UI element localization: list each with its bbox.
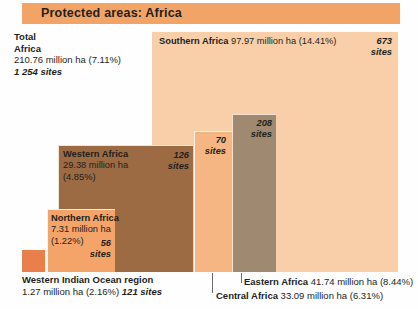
total-label-line2: Africa [14, 43, 154, 55]
callout-wio-line2: 1.27 million ha (2.16%) 121 sites [22, 286, 162, 298]
label-southern-africa: Southern Africa 97.97 million ha (14.41%… [159, 36, 336, 47]
sites-northern-africa: 56 sites [76, 238, 111, 260]
label-western-africa-name: Western Africa [63, 149, 128, 160]
sites-western-africa: 126 sites [157, 150, 189, 172]
label-northern-africa-name: Northern Africa [51, 213, 119, 224]
sites-eastern-africa-number: 208 [236, 118, 272, 129]
callout-eastern-value: 41.74 million ha (8.44%) [311, 276, 413, 287]
callout-wio-sites: 121 sites [122, 286, 162, 297]
sites-southern-africa: 673 sites [348, 36, 392, 58]
callout-eastern-name: Eastern Africa [244, 276, 308, 287]
callout-western-indian-ocean: Western Indian Ocean region 1.27 million… [22, 274, 162, 298]
label-western-africa-value-line2: (4.85%) [63, 172, 128, 183]
label-southern-africa-value: 97.97 million ha (14.41%) [231, 36, 336, 46]
total-label-line1: Total [14, 31, 154, 43]
label-southern-africa-name: Southern Africa [159, 36, 228, 46]
sites-eastern-africa-word: sites [236, 129, 272, 140]
callout-wio-name: Western Indian Ocean region [22, 274, 162, 286]
sites-northern-africa-number: 56 [76, 238, 111, 249]
total-area-value: 210.76 million ha (7.11%) [14, 54, 154, 66]
page-title: Protected areas: Africa [41, 6, 182, 20]
sites-central-africa-word: sites [198, 146, 226, 157]
total-sites-value: 1 254 sites [14, 66, 154, 78]
sites-western-africa-number: 126 [157, 150, 189, 161]
leader-line-central-africa [212, 273, 213, 293]
total-africa-summary: Total Africa 210.76 million ha (7.11%) 1… [14, 31, 154, 77]
sites-central-africa: 70 sites [198, 135, 226, 157]
label-western-africa: Western Africa 29.38 million ha (4.85%) [63, 149, 128, 183]
label-western-africa-value-line1: 29.38 million ha [63, 160, 128, 171]
sites-northern-africa-word: sites [76, 249, 111, 260]
sites-southern-africa-number: 673 [348, 36, 392, 47]
sites-central-africa-number: 70 [198, 135, 226, 146]
sites-eastern-africa: 208 sites [236, 118, 272, 140]
callout-eastern-africa: Eastern Africa 41.74 million ha (8.44%) [244, 276, 413, 288]
callout-central-value: 33.09 million ha (6.31%) [281, 290, 383, 301]
sites-western-africa-word: sites [157, 161, 189, 172]
callout-central-africa: Central Africa 33.09 million ha (6.31%) [216, 290, 383, 302]
protected-areas-africa-figure: Protected areas: Africa Total Africa 210… [0, 0, 418, 309]
leader-line-eastern-africa [241, 273, 242, 283]
sites-southern-africa-word: sites [348, 47, 392, 58]
label-northern-africa-value-line1: 7.31 million ha [51, 224, 119, 235]
callout-wio-value: 1.27 million ha (2.16%) [22, 286, 119, 297]
treemap-rect-western-indian-ocean[interactable] [22, 250, 45, 272]
callout-central-name: Central Africa [216, 290, 278, 301]
